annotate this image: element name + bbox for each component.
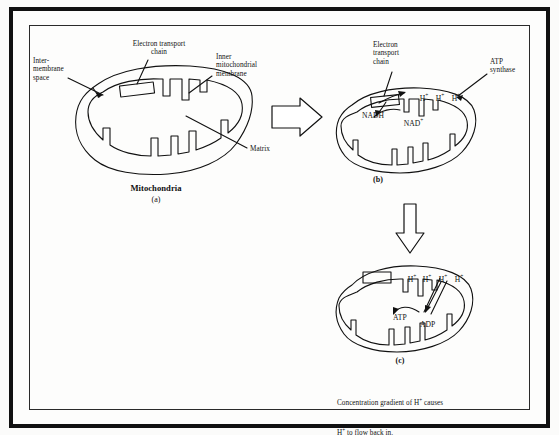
figure-caption-line-1: Concentration gradient of H+ causes xyxy=(337,398,443,408)
panel-b-arrowhead-protons xyxy=(398,91,406,97)
panel-c-etc-complex xyxy=(363,272,391,283)
panel-c-label-adp: ADP xyxy=(420,321,435,329)
panel-c-proton-4: H+ xyxy=(443,268,463,293)
panel-b-label-nad-plus: NAD+ xyxy=(392,112,423,137)
figure-caption-line-2-post: to flow back in. xyxy=(345,429,393,435)
panel-b-leader-etc xyxy=(384,72,392,96)
arrow-a-to-b xyxy=(272,98,322,136)
panel-a-leader-intermembrane xyxy=(68,78,103,95)
figure-caption: Concentration gradient of H+ causes H+ t… xyxy=(337,378,443,435)
panel-a-label-electron-transport-chain: Electron transport chain xyxy=(117,40,201,57)
diagram-stage: Inter- membrane space Electron transport… xyxy=(0,0,559,435)
figure-caption-line-1-post: causes xyxy=(422,399,443,407)
panel-b-label-atp-synthase: ATP synthase xyxy=(490,58,515,75)
panel-a-caption: (a) xyxy=(108,196,204,204)
panel-b-leader-atp-synthase xyxy=(458,74,487,96)
panel-a-label-matrix: Matrix xyxy=(250,145,270,153)
panel-b-proton-3-charge: + xyxy=(457,93,460,99)
panel-a-leader-matrix xyxy=(186,116,247,148)
panel-b-proton-3: H+ xyxy=(440,87,460,112)
panel-a-label-inner-mitochondrial-membrane: Inner mitochondrial membrane xyxy=(216,53,257,78)
panel-b-label-nad-base: NAD xyxy=(404,119,421,128)
panel-a-title: Mitochondria xyxy=(108,184,204,192)
arrow-b-to-c xyxy=(396,204,424,253)
panel-b-label-nad-charge: + xyxy=(420,118,423,124)
panel-c-label-atp: ATP xyxy=(393,314,407,322)
panel-b-caption: (b) xyxy=(363,176,393,184)
diagram-vectors xyxy=(0,0,559,435)
panel-a-label-intermembrane-space: Inter- membrane space xyxy=(33,57,64,82)
panel-b-etc-complex xyxy=(371,95,400,108)
panel-b-label-nadh: NADH xyxy=(362,112,384,120)
panel-b-label-electron-transport-chain: Electron transport chain xyxy=(373,41,399,66)
figure-caption-line-1-pre: Concentration gradient of H xyxy=(337,399,419,407)
panel-c-caption: (c) xyxy=(385,357,415,365)
panel-c-proton-4-charge: + xyxy=(460,274,463,280)
panel-a-inner-membrane xyxy=(88,79,242,156)
figure-page: Inter- membrane space Electron transport… xyxy=(0,0,559,435)
panel-a-leader-etc xyxy=(137,60,148,84)
panel-c-arrowhead-proton-flow xyxy=(425,305,431,313)
figure-caption-line-2: H+ to flow back in. xyxy=(337,428,443,435)
